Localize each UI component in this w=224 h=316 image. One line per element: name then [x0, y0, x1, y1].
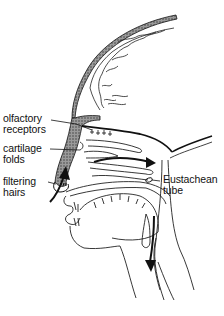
chin-neck [70, 226, 136, 298]
airflow-arrow-throat [145, 216, 156, 272]
palate [66, 182, 170, 204]
label-olfactory-receptors: olfactory receptors [3, 113, 46, 135]
label-olfactory-line2: receptors [3, 124, 46, 135]
eustachean-tube-opening [145, 177, 153, 183]
tongue [80, 194, 158, 240]
label-filtering-hairs: filtering hairs [3, 176, 36, 198]
olfactory-receptor-marks [90, 129, 112, 136]
label-cartilage-line2: folds [3, 154, 42, 165]
label-cartilage-folds: cartilage folds [3, 143, 42, 165]
label-eustachean-tube: Eustachean tube [163, 174, 217, 196]
label-eustachean-line2: tube [163, 185, 217, 196]
brain [90, 28, 174, 110]
lips [64, 196, 80, 226]
nasal-roof [82, 126, 212, 158]
label-filtering-line2: hairs [3, 187, 36, 198]
